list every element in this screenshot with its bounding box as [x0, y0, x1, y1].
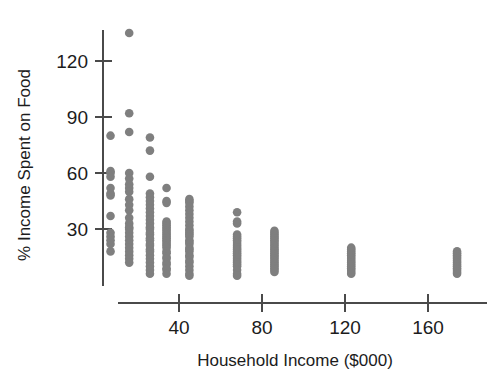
data-points-layer [106, 29, 461, 280]
data-point [162, 184, 171, 193]
y-tick-label: 30 [67, 219, 88, 240]
data-point [106, 131, 115, 140]
data-point [106, 172, 115, 181]
y-axis-title: % Income Spent on Food [15, 69, 34, 261]
data-point [125, 206, 134, 215]
data-point [106, 240, 115, 249]
data-point [146, 133, 155, 142]
y-tick-label: 60 [67, 163, 88, 184]
data-point [106, 247, 115, 256]
x-tick-label: 120 [329, 317, 361, 338]
plot-area: 306090120 4080120160 % Income Spent on F… [0, 0, 493, 391]
data-point [146, 146, 155, 155]
data-point [146, 172, 155, 181]
data-point [106, 212, 115, 221]
data-point [125, 128, 134, 137]
x-tick-label: 80 [251, 317, 272, 338]
data-point [162, 270, 171, 279]
y-tick-label: 120 [56, 51, 88, 72]
data-point [146, 270, 155, 279]
data-point [233, 219, 242, 228]
data-point [185, 271, 194, 280]
data-point [233, 208, 242, 217]
data-point [125, 187, 134, 196]
data-point [125, 29, 134, 38]
x-tick-label: 40 [168, 317, 189, 338]
scatter-chart: 306090120 4080120160 % Income Spent on F… [0, 0, 493, 391]
data-point [125, 258, 134, 267]
data-point [453, 270, 462, 279]
data-point [233, 271, 242, 280]
x-axis-title: Household Income ($000) [197, 351, 393, 370]
data-point [106, 191, 115, 200]
data-point [270, 268, 279, 277]
x-axis-ticks: 4080120160 [168, 294, 443, 338]
x-tick-label: 160 [412, 317, 444, 338]
data-point [347, 270, 356, 279]
data-point [125, 109, 134, 118]
data-point [162, 199, 171, 208]
y-tick-label: 90 [67, 107, 88, 128]
